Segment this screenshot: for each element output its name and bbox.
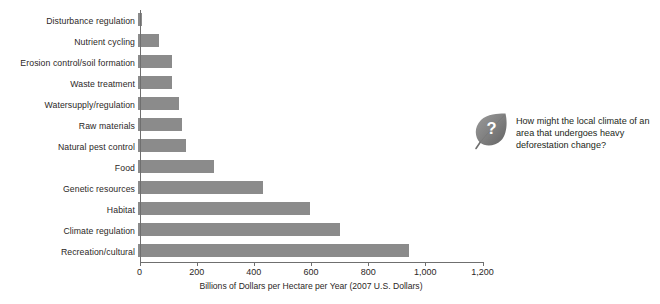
bar-row: Habitat (0, 199, 500, 220)
x-axis-tick (483, 262, 484, 266)
bar-chart-figure: Disturbance regulationNutrient cyclingEr… (0, 0, 500, 304)
plot-area: Disturbance regulationNutrient cyclingEr… (0, 10, 500, 262)
bar (138, 202, 310, 215)
category-axis-line (140, 10, 141, 262)
x-axis-tick (425, 262, 426, 266)
question-mark-glyph: ? (486, 119, 496, 137)
category-label: Nutrient cycling (0, 37, 138, 47)
bar (138, 160, 214, 173)
bar (138, 97, 179, 110)
bar-row: Genetic resources (0, 178, 500, 199)
x-axis-tick-label: 400 (246, 267, 261, 278)
x-axis-tick-label: 600 (303, 267, 318, 278)
bar-row: Recreation/cultural (0, 241, 500, 262)
x-axis-tick-label: 800 (361, 267, 376, 278)
bar-track (138, 73, 500, 94)
leaf-question-icon: ? (474, 111, 510, 151)
bar-row: Natural pest control (0, 136, 500, 157)
bar-track (138, 31, 500, 52)
category-label: Climate regulation (0, 226, 138, 236)
bar-track (138, 220, 500, 241)
question-callout: ? How might the local climate of an area… (474, 111, 650, 151)
category-label: Raw materials (0, 121, 138, 131)
x-axis-tick (197, 262, 198, 266)
bar (138, 244, 409, 257)
x-axis-tick-label: 1,000 (414, 267, 437, 278)
bar-track (138, 178, 500, 199)
bar-track (138, 115, 500, 136)
bar-track (138, 241, 500, 262)
bar-track (138, 52, 500, 73)
category-label: Natural pest control (0, 142, 138, 152)
bar (138, 181, 263, 194)
bar-track (138, 94, 500, 115)
bar (138, 34, 159, 47)
x-axis-title: Billions of Dollars per Hectare per Year… (139, 281, 483, 292)
category-label: Food (0, 163, 138, 173)
category-label: Recreation/cultural (0, 247, 138, 257)
bar-row: Watersupply/regulation (0, 94, 500, 115)
category-label: Watersupply/regulation (0, 100, 138, 110)
bar-row: Climate regulation (0, 220, 500, 241)
x-axis-tick-label: 200 (189, 267, 204, 278)
x-axis-tick (368, 262, 369, 266)
x-axis-tick-label: 1,200 (471, 267, 494, 278)
bar-row: Raw materials (0, 115, 500, 136)
bar (138, 139, 186, 152)
x-axis-tick (311, 262, 312, 266)
bar (138, 55, 172, 68)
bar-row: Nutrient cycling (0, 31, 500, 52)
question-text: How might the local climate of an area t… (516, 111, 650, 151)
category-label: Waste treatment (0, 79, 138, 89)
x-axis-tick (254, 262, 255, 266)
bar-row: Food (0, 157, 500, 178)
category-label: Genetic resources (0, 184, 138, 194)
bar-track (138, 199, 500, 220)
bar-row: Disturbance regulation (0, 10, 500, 31)
category-label: Disturbance regulation (0, 16, 138, 26)
x-axis-tick-label: 0 (137, 267, 142, 278)
category-label: Erosion control/soil formation (0, 58, 138, 68)
category-label: Habitat (0, 205, 138, 215)
bar-track (138, 157, 500, 178)
bar (138, 223, 340, 236)
bar-track (138, 136, 500, 157)
bar (138, 76, 172, 89)
x-axis-tick (140, 262, 141, 266)
bar-track (138, 10, 500, 31)
bar-row: Waste treatment (0, 73, 500, 94)
bar-row: Erosion control/soil formation (0, 52, 500, 73)
bar (138, 118, 182, 131)
